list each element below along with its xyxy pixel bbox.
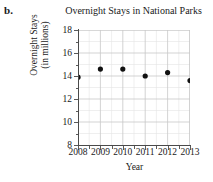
data-point bbox=[120, 67, 125, 72]
y-minor-tick-mark bbox=[76, 42, 79, 43]
y-tick-label: 18 bbox=[56, 25, 72, 35]
y-minor-tick-mark bbox=[76, 88, 79, 89]
data-point bbox=[143, 73, 148, 78]
data-points-layer bbox=[78, 30, 190, 145]
plot-area bbox=[78, 30, 190, 145]
y-tick-mark bbox=[74, 122, 78, 123]
y-tick-label: 14 bbox=[56, 71, 72, 81]
y-tick-mark bbox=[74, 53, 78, 54]
data-point bbox=[187, 78, 190, 83]
x-axis-label: Year bbox=[78, 162, 191, 173]
x-tick-label-group: 200820092010201120122013 bbox=[66, 147, 202, 159]
x-tick-label: 2013 bbox=[177, 147, 203, 158]
y-minor-tick-mark bbox=[76, 134, 79, 135]
y-axis-label-line1: Overnight Stays bbox=[29, 14, 40, 75]
y-axis-label-line2: (in millions) bbox=[40, 21, 51, 68]
y-minor-tick-mark bbox=[76, 65, 79, 66]
data-point bbox=[165, 70, 170, 75]
part-label: b. bbox=[4, 4, 13, 16]
y-tick-label: 16 bbox=[56, 48, 72, 58]
y-tick-mark bbox=[74, 30, 78, 31]
y-tick-label: 12 bbox=[56, 94, 72, 104]
y-axis-spine bbox=[78, 29, 79, 146]
y-tick-mark bbox=[74, 99, 78, 100]
y-minor-tick-mark bbox=[76, 111, 79, 112]
y-tick-mark bbox=[74, 76, 78, 77]
chart-title: Overnight Stays in National Parks bbox=[56, 5, 211, 17]
data-point bbox=[98, 67, 103, 72]
figure-panel: b. Overnight Stays in National Parks Ove… bbox=[0, 0, 213, 182]
y-tick-label: 10 bbox=[56, 117, 72, 127]
y-axis-label: Overnight Stays (in millions) bbox=[25, 0, 55, 105]
